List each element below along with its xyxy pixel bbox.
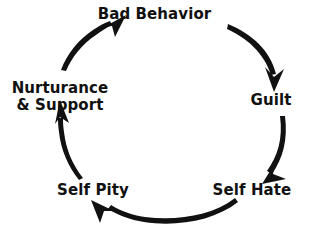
node-nurturance-label-line-1: Nurturance	[8, 80, 112, 97]
node-self-hate-label: Self Hate	[206, 182, 298, 199]
cycle-arrows-group	[0, 0, 309, 237]
node-nurturance: Nurturance & Support	[8, 80, 112, 114]
node-self-hate: Self Hate	[206, 182, 298, 199]
node-nurturance-label-line-2: & Support	[8, 97, 112, 114]
arrow-guilt-to-self-hate	[262, 116, 286, 184]
node-self-pity: Self Pity	[52, 182, 134, 199]
cycle-diagram: Bad Behavior Guilt Self Hate Self Pity N…	[0, 0, 309, 237]
arrow-self-hate-to-self-pity	[91, 198, 238, 224]
arrow-bad-behavior-to-guilt	[227, 24, 284, 92]
arrow-nurturance-to-bad-behavior	[61, 15, 126, 71]
node-guilt: Guilt	[243, 92, 299, 109]
node-bad-behavior-label: Bad Behavior	[0, 6, 309, 23]
node-self-pity-label: Self Pity	[52, 182, 134, 199]
node-bad-behavior: Bad Behavior	[0, 6, 309, 23]
node-guilt-label: Guilt	[243, 92, 299, 109]
